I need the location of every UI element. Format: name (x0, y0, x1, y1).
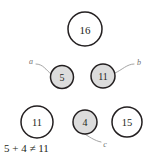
node-16[interactable]: 16 (68, 12, 102, 46)
diagram-canvas: 16 5 11 11 4 15 a b c (0, 0, 154, 158)
pointer-label-b: b (137, 58, 141, 67)
pointer-line-a (36, 64, 51, 74)
equation-caption: 5 + 4 ≠ 11 (4, 142, 49, 154)
pointer-label-a: a (29, 57, 33, 66)
node-11-top-value: 11 (98, 71, 108, 82)
node-5-value: 5 (60, 72, 65, 83)
node-11-bottom[interactable]: 11 (21, 106, 53, 138)
node-11-top[interactable]: 11 (91, 64, 115, 88)
node-5[interactable]: 5 (51, 66, 74, 89)
node-16-value: 16 (80, 24, 92, 36)
pointer-line-b (115, 64, 134, 73)
node-15-value: 15 (122, 117, 133, 128)
node-15[interactable]: 15 (112, 107, 142, 137)
node-4-value: 4 (83, 117, 88, 128)
node-11-bottom-value: 11 (32, 117, 42, 128)
number-circle-diagram: 16 5 11 11 4 15 a b c (0, 0, 154, 158)
pointer-label-c: c (103, 140, 107, 149)
node-4[interactable]: 4 (73, 110, 97, 134)
